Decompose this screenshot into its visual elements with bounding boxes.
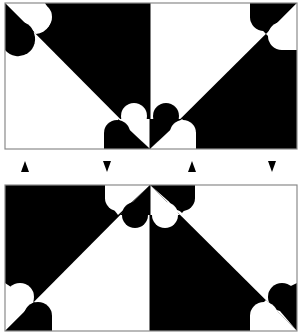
- tile-diagram: [0, 0, 303, 336]
- arrow-down-icon: [268, 161, 276, 172]
- arrow-up-icon: [188, 161, 196, 172]
- top-panel: [5, 3, 297, 149]
- bottom-panel: [5, 185, 297, 331]
- arrow-down-icon: [103, 161, 111, 172]
- arrow-up-icon: [21, 161, 29, 172]
- arrow-row: [21, 161, 276, 172]
